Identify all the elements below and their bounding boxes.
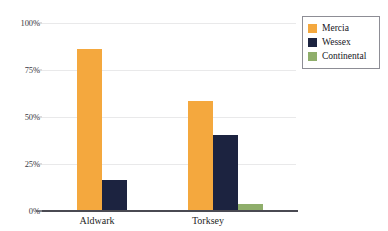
legend-swatch-icon-continental bbox=[308, 52, 317, 61]
gridline-100 bbox=[42, 23, 296, 24]
legend-label-continental: Continental bbox=[322, 52, 366, 62]
bar-chart: 100% 75% 50% 25% 0% Aldwark Torksey Merc… bbox=[0, 0, 388, 231]
bar-torksey-wessex bbox=[213, 135, 238, 211]
legend-swatch-icon-wessex bbox=[308, 38, 317, 47]
x-tick-label-torksey: Torksey bbox=[168, 215, 248, 226]
y-tick-label-100: 100% bbox=[0, 19, 40, 28]
y-tick-label-25: 25% bbox=[0, 160, 40, 169]
legend: Mercia Wessex Continental bbox=[302, 16, 380, 69]
y-tick-label-0: 0% bbox=[0, 207, 40, 216]
plot-area bbox=[42, 23, 296, 211]
bar-aldwark-wessex bbox=[102, 180, 127, 211]
bar-aldwark-mercia bbox=[77, 49, 102, 211]
legend-item-wessex: Wessex bbox=[308, 36, 375, 49]
legend-swatch-icon-mercia bbox=[308, 24, 317, 33]
y-axis: 100% 75% 50% 25% 0% bbox=[0, 23, 40, 211]
bar-torksey-mercia bbox=[188, 101, 213, 211]
y-tick-label-50: 50% bbox=[0, 113, 40, 122]
legend-item-mercia: Mercia bbox=[308, 22, 375, 35]
x-tick-label-aldwark: Aldwark bbox=[57, 215, 137, 226]
legend-item-continental: Continental bbox=[308, 50, 375, 63]
y-tick-label-75: 75% bbox=[0, 66, 40, 75]
legend-label-mercia: Mercia bbox=[322, 24, 349, 34]
legend-label-wessex: Wessex bbox=[322, 38, 351, 48]
x-axis-line bbox=[36, 210, 298, 212]
